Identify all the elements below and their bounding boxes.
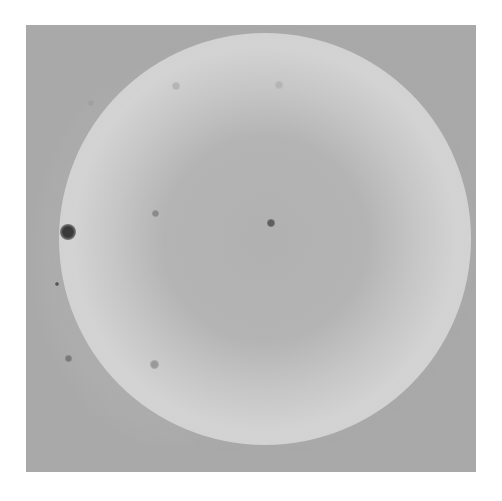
dark-spot [150,360,159,369]
dark-spot [152,210,159,217]
dark-spot [60,224,76,240]
bright-disk [59,33,471,445]
dark-spot [55,282,59,286]
disk-photograph [26,25,476,472]
dark-spot [65,355,72,362]
dark-spot [172,82,180,90]
dark-spot [267,219,275,227]
dark-spot [275,81,283,89]
dark-spot [88,100,94,106]
